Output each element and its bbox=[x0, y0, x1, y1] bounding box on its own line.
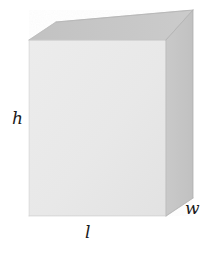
height-label: h bbox=[12, 110, 23, 127]
box-illustration bbox=[0, 0, 211, 256]
width-label: w bbox=[185, 200, 200, 217]
front-face bbox=[29, 40, 166, 216]
length-label: l bbox=[85, 224, 90, 241]
box-diagram-figure: h l w bbox=[0, 0, 211, 256]
top-face bbox=[29, 10, 193, 40]
right-side-face bbox=[166, 10, 193, 216]
